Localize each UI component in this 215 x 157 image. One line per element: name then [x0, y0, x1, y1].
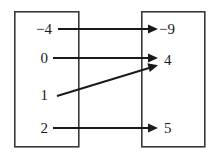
mapping-diagram: −4 0 1 2 −9 4 5: [0, 0, 215, 157]
domain-element-1: 1: [41, 87, 49, 103]
domain-element-0: 0: [41, 50, 49, 66]
range-element-neg9: −9: [159, 21, 175, 37]
range-element-5: 5: [164, 120, 172, 136]
domain-element-neg4: −4: [36, 21, 52, 37]
domain-element-2: 2: [41, 120, 49, 136]
range-element-4: 4: [164, 52, 172, 68]
